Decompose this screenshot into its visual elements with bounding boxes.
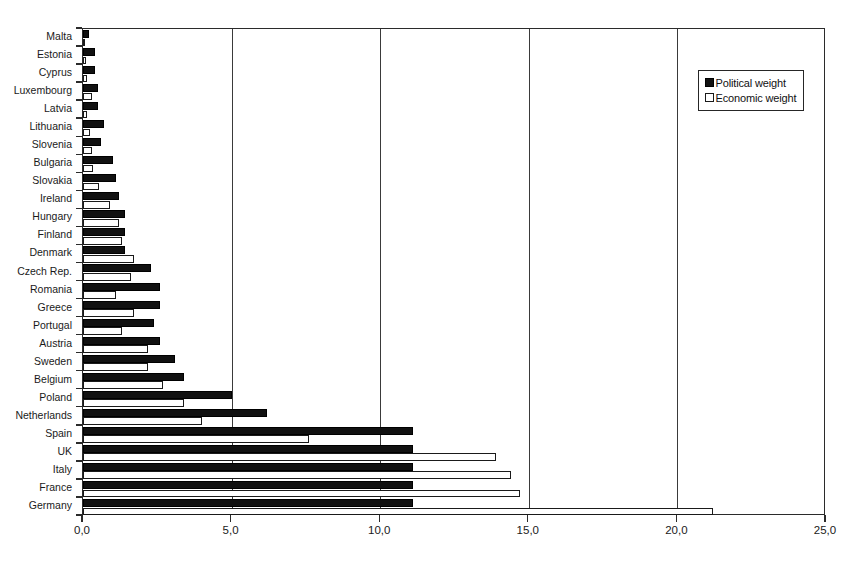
bar-political-weight	[83, 138, 101, 146]
y-axis-label: UK	[0, 446, 72, 457]
y-axis-tick	[76, 190, 82, 191]
bar-economic-weight	[83, 327, 122, 335]
bar-group	[83, 354, 826, 372]
y-axis-tick	[76, 298, 82, 299]
bar-economic-weight	[83, 129, 90, 137]
y-axis-tick	[76, 280, 82, 281]
bar-political-weight	[83, 246, 125, 254]
y-axis-tick	[76, 244, 82, 245]
y-axis-tick	[76, 45, 82, 46]
y-axis-tick	[76, 154, 82, 155]
bar-economic-weight	[83, 399, 184, 407]
y-axis-label: Bulgaria	[0, 157, 72, 168]
legend-label: Economic weight	[716, 92, 797, 104]
y-axis-tick	[76, 208, 82, 209]
bar-group	[83, 155, 826, 173]
y-axis-label: Poland	[0, 392, 72, 403]
y-axis-tick	[76, 334, 82, 335]
bar-group	[83, 444, 826, 462]
bar-group	[83, 408, 826, 426]
bar-economic-weight	[83, 471, 511, 479]
y-axis-tick	[76, 316, 82, 317]
bar-economic-weight	[83, 93, 92, 101]
bar-economic-weight	[83, 490, 520, 498]
bar-political-weight	[83, 66, 95, 74]
y-axis-label: Malta	[0, 31, 72, 42]
bar-political-weight	[83, 30, 89, 38]
bar-group	[83, 29, 826, 47]
y-axis-tick	[76, 370, 82, 371]
bar-economic-weight	[83, 75, 87, 83]
legend-swatch-hollow-square-icon	[705, 93, 714, 102]
y-axis-label: Spain	[0, 428, 72, 439]
bar-group	[83, 372, 826, 390]
bar-political-weight	[83, 264, 151, 272]
bar-group	[83, 263, 826, 281]
y-axis-label: Greece	[0, 302, 72, 313]
bar-political-weight	[83, 283, 160, 291]
bar-economic-weight	[83, 417, 202, 425]
bar-economic-weight	[83, 39, 85, 47]
bar-economic-weight	[83, 147, 92, 155]
y-axis-label: Romania	[0, 284, 72, 295]
x-axis-tick	[81, 515, 82, 522]
bar-political-weight	[83, 373, 184, 381]
y-axis-label: Cyprus	[0, 67, 72, 78]
bar-economic-weight	[83, 291, 116, 299]
bar-economic-weight	[83, 165, 93, 173]
bar-group	[83, 336, 826, 354]
y-axis-label: Ireland	[0, 193, 72, 204]
y-axis-label: Austria	[0, 338, 72, 349]
bar-group	[83, 191, 826, 209]
bar-group	[83, 318, 826, 336]
y-axis-tick	[76, 117, 82, 118]
y-axis-label: Hungary	[0, 211, 72, 222]
y-axis-label: Belgium	[0, 374, 72, 385]
y-axis-label: Slovenia	[0, 139, 72, 150]
bar-economic-weight	[83, 57, 86, 65]
bar-political-weight	[83, 391, 232, 399]
legend-swatch-filled-square-icon	[705, 78, 714, 87]
legend-item: Economic weight	[705, 90, 796, 105]
bar-political-weight	[83, 445, 413, 453]
bar-political-weight	[83, 427, 413, 435]
y-axis-tick	[76, 442, 82, 443]
x-axis-tick	[527, 515, 528, 522]
bar-political-weight	[83, 301, 160, 309]
y-axis-label: Luxembourg	[0, 85, 72, 96]
legend-label: Political weight	[716, 77, 786, 89]
bar-economic-weight	[83, 255, 134, 263]
bar-political-weight	[83, 120, 104, 128]
y-axis-label: Latvia	[0, 103, 72, 114]
bar-group	[83, 173, 826, 191]
bar-group	[83, 426, 826, 444]
bar-political-weight	[83, 337, 160, 345]
y-axis-tick	[76, 406, 82, 407]
bar-group	[83, 137, 826, 155]
x-axis-tick	[824, 515, 825, 522]
y-axis-tick	[76, 27, 82, 28]
y-axis-tick	[76, 478, 82, 479]
y-axis-label: Netherlands	[0, 410, 72, 421]
bar-group	[83, 245, 826, 263]
bar-group	[83, 498, 826, 516]
bar-group	[83, 300, 826, 318]
bar-economic-weight	[83, 453, 496, 461]
chart-legend: Political weightEconomic weight	[698, 70, 804, 111]
y-axis-label: Czech Rep.	[0, 266, 72, 277]
bar-political-weight	[83, 355, 175, 363]
y-axis-tick	[76, 388, 82, 389]
y-axis-label: France	[0, 482, 72, 493]
x-axis-labels: 0,05,010,015,020,025,0	[0, 524, 856, 546]
y-axis-label: Finland	[0, 229, 72, 240]
y-axis-tick	[76, 81, 82, 82]
bar-political-weight	[83, 156, 113, 164]
bar-economic-weight	[83, 183, 99, 191]
bar-political-weight	[83, 84, 98, 92]
y-axis-tick	[76, 172, 82, 173]
bar-political-weight	[83, 102, 98, 110]
y-axis-label: Germany	[0, 500, 72, 511]
bar-group	[83, 390, 826, 408]
y-axis-tick	[76, 262, 82, 263]
y-axis-label: Portugal	[0, 320, 72, 331]
